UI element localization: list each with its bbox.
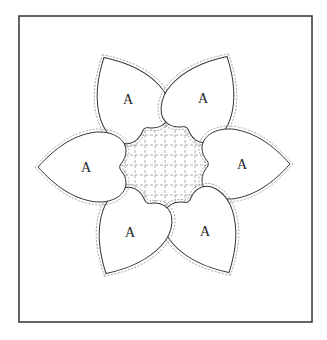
heart-label: A — [200, 224, 211, 239]
heart-label: A — [81, 160, 92, 175]
heart-label: A — [237, 157, 248, 172]
heart-label: A — [125, 225, 136, 240]
hearts-layer: AAAAAA — [35, 35, 293, 295]
heart-label: A — [198, 91, 209, 106]
diagram-canvas: AAAAAA — [0, 0, 327, 340]
heart-label: A — [123, 92, 134, 107]
